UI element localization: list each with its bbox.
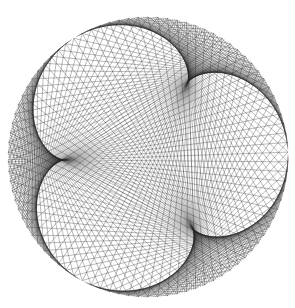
figure-container [0,0,295,308]
figure-page: MATHEMATICAL RECREATIONS Figure 10 [0,0,295,308]
string-art-diagram [0,0,295,308]
